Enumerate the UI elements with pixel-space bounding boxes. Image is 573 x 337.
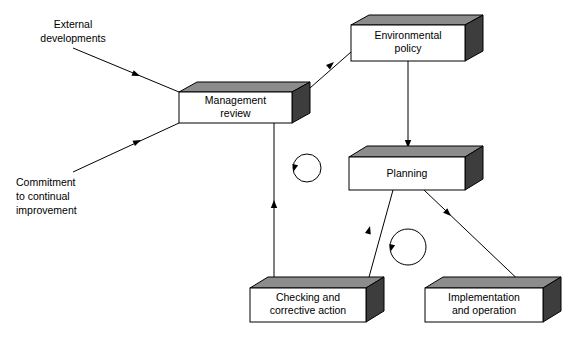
arrowhead-icon bbox=[365, 225, 373, 234]
arrowhead-icon bbox=[131, 70, 141, 79]
node-label-line1: Environmental bbox=[374, 29, 441, 41]
node-label-line1: Checking and bbox=[276, 291, 340, 303]
node-management-review[interactable]: Management review bbox=[179, 82, 310, 123]
diagram-canvas: Management review Environmental policy P… bbox=[0, 0, 573, 337]
box-top-face bbox=[179, 82, 310, 92]
connector-management-review-to-environmental-policy bbox=[310, 52, 351, 88]
node-label-line1: Implementation bbox=[448, 291, 520, 303]
box-top-face bbox=[351, 15, 483, 25]
connector-line bbox=[366, 190, 393, 288]
free-label-line1: External bbox=[54, 18, 93, 30]
node-label-line2: corrective action bbox=[270, 304, 347, 316]
box-top-face bbox=[425, 277, 561, 288]
node-checking-and-corrective-action[interactable]: Checking and corrective action bbox=[250, 277, 384, 322]
connector-checking-to-planning bbox=[365, 190, 393, 288]
cycle-circle bbox=[390, 229, 426, 265]
node-label-line2: and operation bbox=[452, 304, 516, 316]
node-planning[interactable]: Planning bbox=[349, 146, 483, 190]
box-top-face bbox=[349, 146, 483, 157]
node-label-line1: Planning bbox=[387, 167, 428, 179]
node-label-line2: policy bbox=[395, 42, 423, 54]
box-top-face bbox=[250, 277, 384, 288]
arrowhead-icon bbox=[132, 137, 142, 146]
arrowhead-icon bbox=[291, 164, 298, 172]
arrowhead-icon bbox=[271, 200, 277, 208]
cycle-arrow-lower-icon bbox=[388, 229, 426, 265]
free-label-line1: Commitment bbox=[16, 176, 76, 188]
free-label-commitment-to-continual-improvement: Commitment to continual improvement bbox=[16, 176, 77, 216]
connector-line bbox=[424, 190, 527, 288]
free-label-line2: to continual bbox=[16, 190, 70, 202]
free-label-line3: improvement bbox=[16, 204, 77, 216]
free-label-line2: developments bbox=[40, 32, 105, 44]
diagram-svg: Management review Environmental policy P… bbox=[0, 0, 573, 337]
connector-planning-to-implementation-and-operation bbox=[424, 190, 527, 288]
connector-line bbox=[73, 48, 179, 92]
connector-external-developments-to-management-review bbox=[73, 48, 179, 92]
cycle-circle bbox=[293, 154, 321, 182]
node-implementation-and-operation[interactable]: Implementation and operation bbox=[425, 277, 561, 322]
connector-commitment-to-management-review bbox=[73, 123, 179, 172]
node-environmental-policy[interactable]: Environmental policy bbox=[351, 15, 483, 61]
node-label-line2: review bbox=[220, 107, 251, 119]
connector-environmental-policy-to-planning bbox=[405, 61, 411, 148]
arrowhead-icon bbox=[388, 244, 395, 252]
free-label-external-developments: External developments bbox=[40, 18, 105, 44]
connector-line bbox=[310, 52, 351, 88]
connector-line bbox=[73, 123, 179, 172]
arrowhead-icon bbox=[326, 60, 336, 70]
connector-checking-to-management-review bbox=[271, 123, 277, 288]
cycle-arrow-upper-icon bbox=[291, 154, 321, 182]
node-label-line1: Management bbox=[205, 94, 266, 106]
